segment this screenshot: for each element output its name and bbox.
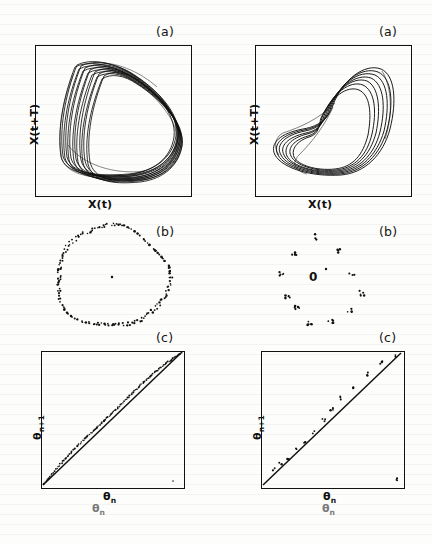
diagonal-reference-line-left	[43, 353, 181, 485]
bottom-theta-label: θn	[92, 502, 105, 517]
marker-dot-right-b	[325, 268, 327, 270]
poincare-section-right-b	[258, 218, 388, 336]
origin-marker-right-b: 0	[309, 270, 317, 284]
panel-label-left-c: (c)	[156, 330, 173, 345]
center-point-left-b	[111, 276, 114, 279]
attractor-plot-right-a	[255, 45, 410, 195]
figure-canvas: (a) X(t+T) X(t)	[0, 0, 432, 544]
bottom-theta-label: θn	[322, 502, 335, 517]
diagonal-reference-line-right	[263, 353, 401, 485]
circle-map-right-c	[261, 351, 403, 487]
x-axis-label-left-a: X(t)	[88, 198, 112, 211]
panel-label-right-a: (a)	[379, 24, 397, 39]
x-axis-label-right-a: X(t)	[308, 198, 332, 211]
poincare-section-left-b	[48, 218, 178, 336]
attractor-plot-left-a	[35, 45, 190, 195]
panel-label-left-a: (a)	[156, 24, 174, 39]
circle-map-left-c	[41, 351, 183, 487]
panel-label-right-c: (c)	[379, 330, 396, 345]
